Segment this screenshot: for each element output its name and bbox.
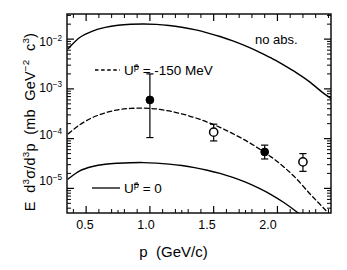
data-point-3 <box>299 154 307 172</box>
curves-group <box>68 24 331 243</box>
axis-ticks-group <box>67 14 331 213</box>
plot-area <box>0 0 347 270</box>
figure-panel: E d3σ/d3p (mb GeV−2 c3) p (GeV/c) 10−2 1… <box>0 0 347 270</box>
plot-frame <box>67 14 331 213</box>
curve-0 <box>68 24 331 99</box>
data-point-2 <box>261 145 269 159</box>
legend-lines-group <box>92 70 120 188</box>
data-points-group <box>146 74 307 171</box>
data-point-0 <box>146 74 154 138</box>
curve-1 <box>68 108 326 210</box>
data-point-1 <box>210 124 218 141</box>
